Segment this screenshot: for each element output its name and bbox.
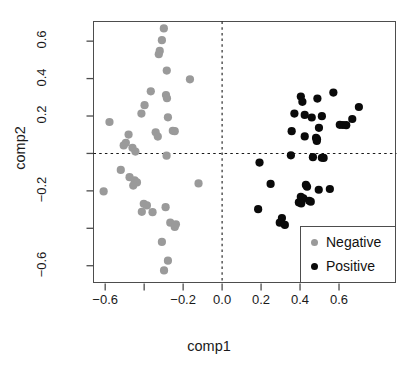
data-point [313,137,321,145]
data-point [303,183,311,191]
x-tick-label: −0.6 [92,292,118,307]
data-point [194,179,202,187]
data-point [307,198,315,206]
legend: Negative Positive [300,226,396,283]
y-tick-label: 0.6 [34,1,49,79]
data-point [158,36,166,44]
data-point [164,257,172,265]
y-tick-label: −0.2 [34,150,49,228]
data-point [100,187,108,195]
data-point [301,111,309,119]
series-negative [100,24,203,274]
data-point [160,24,168,32]
data-point [318,112,326,120]
data-point [186,75,194,83]
data-point [301,132,309,140]
data-point [313,95,321,103]
data-point [138,208,146,216]
data-point [154,132,162,140]
data-point [164,113,172,121]
data-point [131,147,139,155]
chart-canvas [0,0,418,371]
data-point [163,94,171,102]
legend-label-negative: Negative [326,235,381,249]
data-point [288,127,296,135]
data-point [290,109,298,117]
data-point [160,266,168,274]
data-point [298,98,306,106]
data-point [255,159,263,167]
data-point [137,109,145,117]
data-point [329,89,337,97]
y-axis-label: comp2 [12,68,28,228]
data-point [148,208,156,216]
legend-item-negative: Negative [307,230,381,254]
data-point [287,151,295,159]
legend-marker-negative [311,239,318,246]
x-tick-label: −0.2 [170,292,196,307]
data-point [171,223,179,231]
data-point [267,180,275,188]
x-axis-label: comp1 [0,338,418,354]
data-point [315,124,323,132]
data-point [158,238,166,246]
data-point [120,141,128,149]
data-point [162,203,170,211]
data-point [105,118,113,126]
data-point [308,113,316,121]
data-point [124,130,132,138]
data-point [348,115,356,123]
data-point [254,205,262,213]
data-point [171,127,179,135]
data-point [309,153,317,161]
legend-label-positive: Positive [326,259,375,273]
data-point [155,50,163,58]
data-point [281,221,289,229]
legend-item-positive: Positive [307,254,375,278]
y-tick-label: −0.6 [34,225,49,303]
data-point [143,201,151,209]
series-positive [254,89,363,230]
scatter-plot-figure: comp1 comp2 Negative Positive −0.6−0.20.… [0,0,418,371]
data-point [355,103,363,111]
data-point [163,66,171,74]
data-point [297,199,305,207]
legend-marker-positive [311,263,318,270]
data-point [140,101,148,109]
data-point [326,185,334,193]
data-point [162,152,170,160]
x-tick-label: 0.2 [252,292,270,307]
data-point [320,154,328,162]
data-point [129,182,137,190]
x-tick-label: 0.4 [291,292,309,307]
data-point [315,186,323,194]
x-tick-label: 0.6 [330,292,348,307]
x-tick-label: 0.0 [213,292,231,307]
data-point [147,87,155,95]
data-point [342,121,350,129]
data-point [117,166,125,174]
